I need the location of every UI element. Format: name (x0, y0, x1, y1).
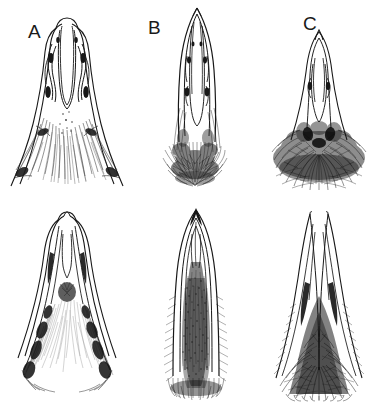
panel-label-b: B (148, 18, 161, 37)
panel-b-bottom (135, 200, 260, 402)
panel-label-a: A (28, 22, 41, 41)
illustration-plate: A (0, 0, 381, 402)
panel-c-top-drawing (258, 0, 381, 200)
panel-c-bottom-drawing (258, 200, 381, 402)
panel-c-bottom (258, 200, 381, 402)
panel-a-bottom (0, 200, 135, 402)
panel-a-top: A (0, 0, 135, 200)
panel-label-c: C (303, 14, 317, 33)
panel-b-bottom-drawing (135, 200, 260, 402)
panel-c-top: C (258, 0, 381, 200)
panel-a-bottom-drawing (0, 200, 135, 402)
panel-b-top: B (135, 0, 260, 200)
panel-a-top-drawing (0, 0, 135, 200)
